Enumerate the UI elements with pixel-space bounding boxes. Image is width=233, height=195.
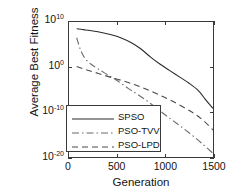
legend-line-sample-icon [71, 125, 115, 137]
y-tick-mark [68, 21, 72, 22]
legend-item-pso-lpd[interactable]: PSO-LPD [67, 137, 160, 152]
legend-item-label: SPSO [118, 111, 144, 122]
x-tick-mark [165, 21, 166, 25]
y-axis-tick-label: 1010 [0, 14, 64, 25]
y-tick-mark [68, 158, 72, 159]
y-axis-tick-label: 10-20 [0, 151, 64, 162]
legend-line-sample-icon [71, 139, 115, 151]
x-tick-mark [214, 21, 215, 25]
figure-canvas: Average Best Fitness 1010 100 10-10 10-2… [0, 0, 233, 195]
x-tick-mark [214, 154, 215, 158]
x-tick-mark [117, 154, 118, 158]
x-axis-tick-label: 500 [108, 161, 126, 172]
series-line-spso [77, 29, 213, 109]
x-axis-tick-label: 1000 [154, 161, 177, 172]
legend-item-label: PSO-TVV [118, 125, 160, 136]
legend-item-pso-tvv[interactable]: PSO-TVV [67, 123, 160, 138]
legend-item-label: PSO-LPD [118, 139, 160, 150]
x-tick-mark [117, 21, 118, 25]
x-axis-label: Generation [68, 176, 214, 188]
y-axis-tick-label: 100 [0, 60, 64, 71]
x-tick-mark [165, 154, 166, 158]
x-axis-tick-label: 0 [65, 161, 71, 172]
legend-line-sample-icon [71, 111, 115, 123]
legend-item-spso[interactable]: SPSO [67, 109, 160, 124]
chart-legend: SPSOPSO-TVVPSO-LPD [66, 105, 161, 152]
x-axis-tick-label: 1500 [202, 161, 225, 172]
y-axis-tick-label: 10-10 [0, 105, 64, 116]
y-tick-mark [210, 112, 214, 113]
y-tick-mark [210, 158, 214, 159]
y-tick-mark [210, 67, 214, 68]
y-tick-mark [68, 67, 72, 68]
y-tick-mark [210, 21, 214, 22]
